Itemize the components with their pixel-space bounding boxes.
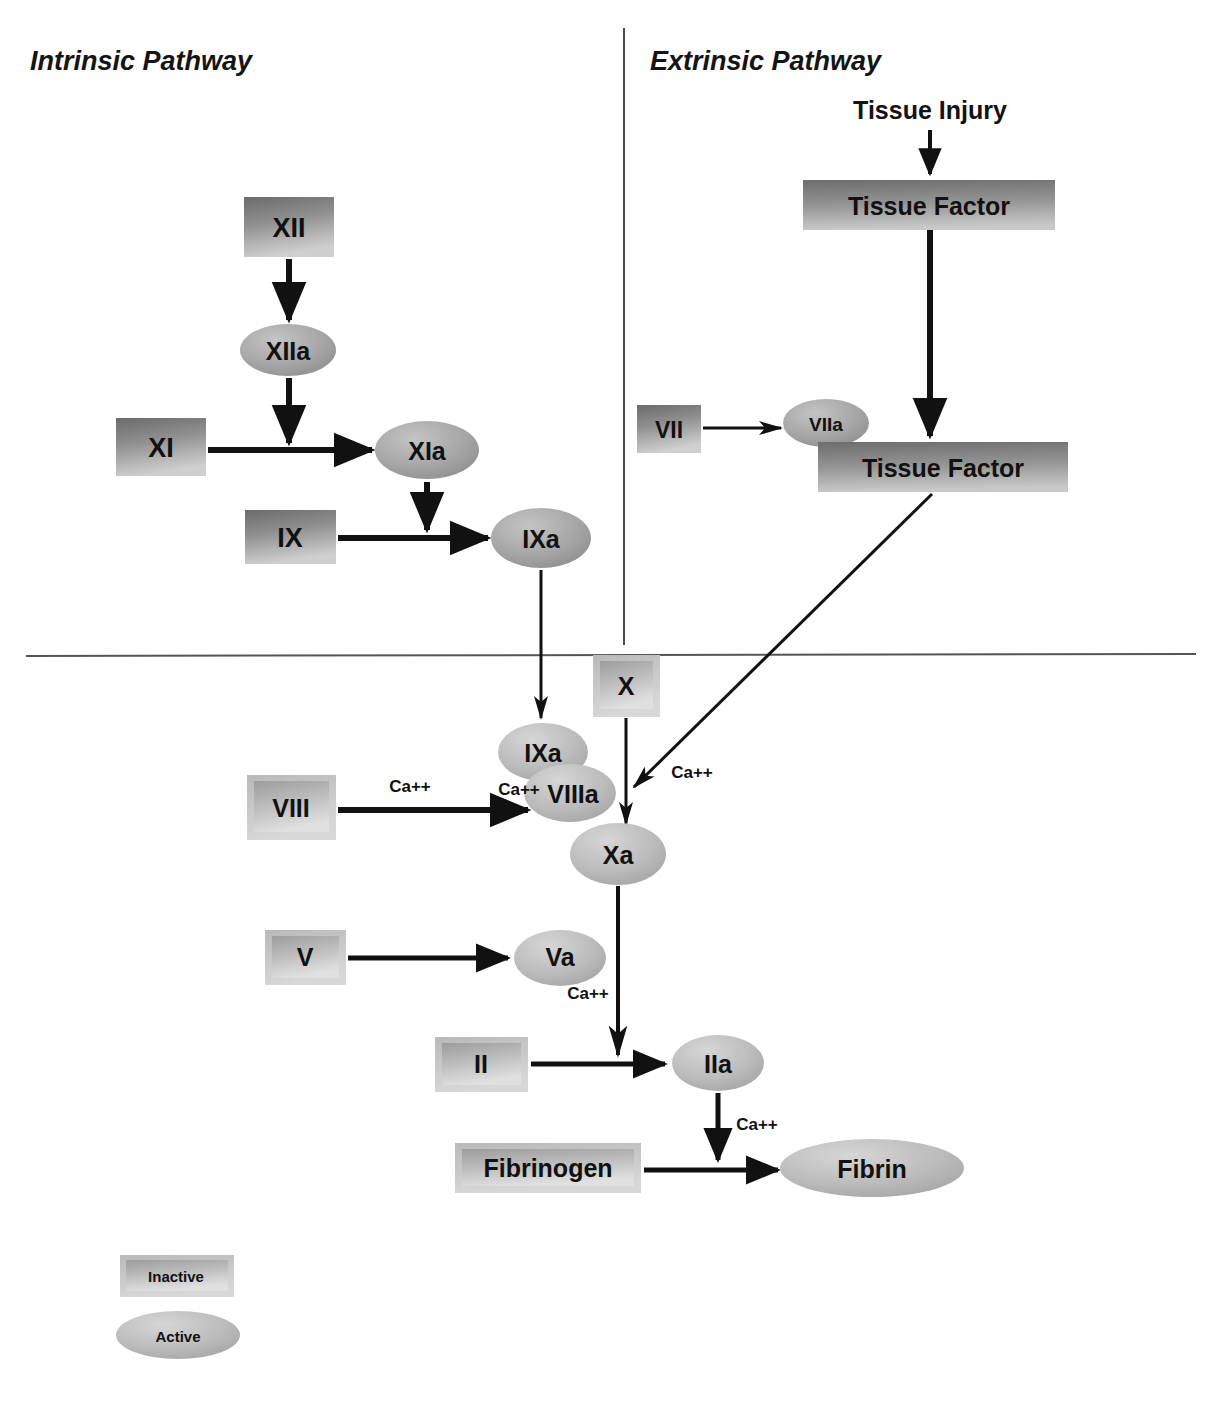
cascade-connectors [208, 130, 932, 1170]
factor-box-tissue-factor-2[interactable]: Tissue Factor [818, 442, 1068, 492]
factor-ellipse-xia-label: XIa [408, 437, 447, 465]
factor-box-xi[interactable]: XI [116, 418, 206, 476]
cascade-canvas: Intrinsic Pathway Extrinsic Pathway Tiss… [0, 0, 1208, 1408]
factor-box-tissue-factor-1[interactable]: Tissue Factor [803, 180, 1055, 230]
factor-box-ii[interactable]: II [435, 1037, 528, 1092]
factor-ellipse-ixa-label: IXa [522, 525, 561, 553]
calcium-label-va: Ca++ [567, 984, 609, 1003]
factor-ellipse-viia-label: VIIa [809, 414, 843, 435]
intrinsic-pathway-title: Intrinsic Pathway [30, 46, 254, 76]
calcium-label-viiia: Ca++ [498, 780, 540, 799]
factor-ellipse-xiia[interactable]: XIIa [240, 324, 336, 376]
factor-ellipse-fibrin[interactable]: Fibrin [780, 1139, 964, 1197]
factor-box-ix-label: IX [277, 523, 303, 553]
factor-box-tissue-factor-2-label: Tissue Factor [862, 454, 1024, 482]
legend-item-active[interactable]: Active [116, 1311, 240, 1359]
factor-box-v-label: V [297, 943, 314, 971]
factor-box-v[interactable]: V [265, 930, 346, 985]
factor-ellipse-va-label: Va [545, 943, 575, 971]
factor-box-viii[interactable]: VIII [247, 775, 336, 840]
factor-box-viii-label: VIII [272, 794, 310, 822]
calcium-label-iia: Ca++ [736, 1115, 778, 1134]
factor-ellipse-va[interactable]: Va [514, 930, 606, 986]
calcium-label-xa: Ca++ [671, 763, 713, 782]
factor-box-ii-label: II [474, 1050, 488, 1078]
factor-ellipse-viiia-label: VIIIa [547, 780, 600, 808]
factor-ellipse-ixa[interactable]: IXa [491, 508, 591, 568]
factor-box-xii-label: XII [272, 213, 305, 243]
calcium-label-viii: Ca++ [389, 777, 431, 796]
coagulation-cascade-diagram: Intrinsic Pathway Extrinsic Pathway Tiss… [0, 0, 1208, 1408]
factor-box-ix[interactable]: IX [245, 510, 336, 564]
factor-box-vii[interactable]: VII [637, 405, 701, 453]
factor-ellipse-xa[interactable]: Xa [570, 823, 666, 885]
factor-ellipse-iia[interactable]: IIa [672, 1035, 764, 1091]
factor-ellipse-iia-label: IIa [704, 1050, 733, 1078]
factor-box-xii[interactable]: XII [244, 197, 334, 257]
legend-item-inactive[interactable]: Inactive [120, 1255, 234, 1297]
factor-ellipse-fibrin-label: Fibrin [837, 1155, 906, 1183]
legend-active-label: Active [155, 1328, 200, 1345]
arrow-tf-complex-to-xa [634, 494, 932, 787]
factor-box-fibrinogen[interactable]: Fibrinogen [455, 1143, 641, 1193]
factor-box-xi-label: XI [148, 433, 174, 463]
factor-ellipse-xiia-label: XIIa [266, 337, 312, 365]
factor-ellipse-viia[interactable]: VIIa [783, 399, 869, 447]
factor-ellipse-ixa-complex-label: IXa [524, 739, 563, 767]
legend-inactive-label: Inactive [148, 1268, 204, 1285]
factor-ellipse-xa-label: Xa [603, 841, 635, 869]
tissue-injury-label: Tissue Injury [853, 96, 1007, 124]
factor-box-x-label: X [618, 672, 635, 700]
factor-box-fibrinogen-label: Fibrinogen [483, 1154, 612, 1182]
legend: Inactive Active [116, 1255, 240, 1359]
factor-box-tissue-factor-1-label: Tissue Factor [848, 192, 1010, 220]
factor-box-vii-label: VII [655, 417, 683, 443]
factor-box-x[interactable]: X [593, 655, 660, 717]
factor-ellipse-xia[interactable]: XIa [375, 421, 479, 479]
extrinsic-pathway-title: Extrinsic Pathway [650, 46, 883, 76]
